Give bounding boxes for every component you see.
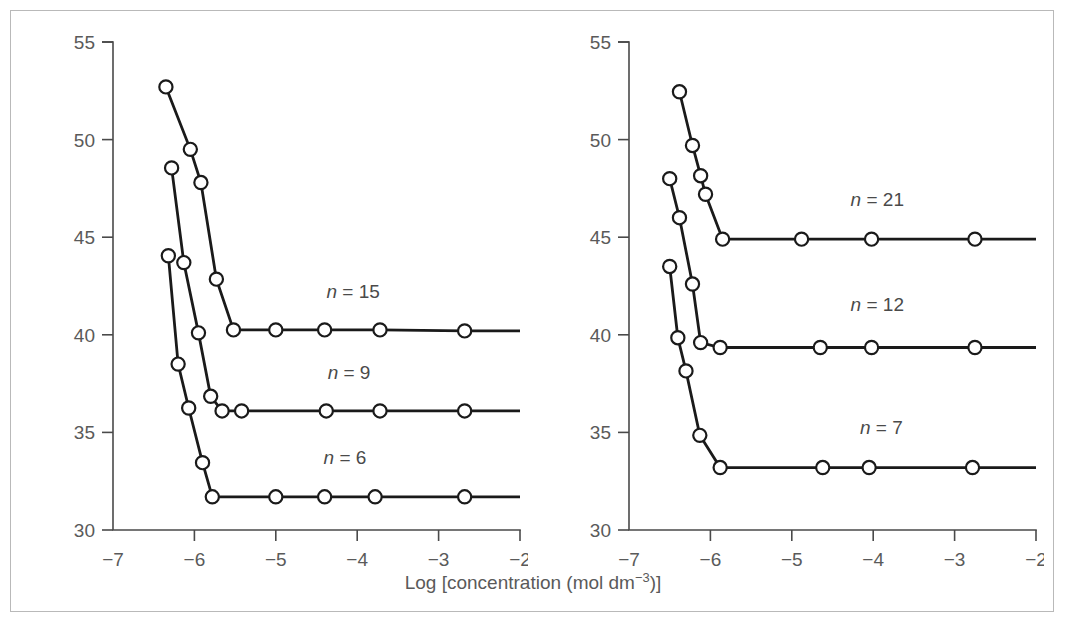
data-point [795, 233, 808, 246]
data-point [206, 490, 219, 503]
data-point [318, 490, 331, 503]
data-point [865, 233, 878, 246]
x-tick-label--5: −5 [265, 549, 287, 570]
x-tick-label--3: −3 [944, 549, 966, 570]
data-point [694, 336, 707, 349]
series-left-0: n = 15 [159, 80, 520, 337]
data-point [966, 461, 979, 474]
x-tick-label--5: −5 [781, 549, 803, 570]
data-point [458, 404, 471, 417]
series-label-21: n = 21 [851, 189, 904, 210]
data-point [159, 80, 172, 93]
data-point [671, 331, 684, 344]
plot-area-left: 303540455055−7−6−5−4−3−2n = 15n = 9n = 6 [8, 14, 528, 610]
data-point [693, 429, 706, 442]
plot-area-right: 303540455055−7−6−5−4−3−2n = 21n = 12n = … [524, 14, 1044, 610]
data-point [458, 490, 471, 503]
data-point [686, 277, 699, 290]
data-point [196, 456, 209, 469]
data-point [204, 390, 217, 403]
data-point [184, 143, 197, 156]
figure-root: 303540455055−7−6−5−4−3−2n = 15n = 9n = 6… [0, 0, 1066, 624]
data-point [210, 273, 223, 286]
data-point [369, 490, 382, 503]
data-point [694, 169, 707, 182]
x-tick-label--7: −7 [618, 549, 640, 570]
data-point [227, 323, 240, 336]
y-tick-label-40: 40 [74, 325, 95, 346]
data-point [192, 326, 205, 339]
y-tick-label-30: 30 [74, 520, 95, 541]
data-point [673, 85, 686, 98]
data-point [714, 461, 727, 474]
data-point [686, 139, 699, 152]
series-right-2: n = 7 [663, 260, 1036, 474]
data-point [716, 233, 729, 246]
data-point [215, 404, 228, 417]
series-right-0: n = 21 [673, 85, 1036, 246]
data-point [320, 404, 333, 417]
data-point [162, 249, 175, 262]
data-point [816, 461, 829, 474]
series-label-15: n = 15 [326, 281, 379, 302]
data-point [235, 404, 248, 417]
y-tick-label-45: 45 [74, 227, 95, 248]
data-point [968, 233, 981, 246]
y-tick-label-55: 55 [590, 32, 611, 53]
y-tick-label-50: 50 [590, 130, 611, 151]
x-axis-title: Log [concentration (mol dm−3)] [405, 570, 662, 594]
series-label-6: n = 6 [324, 447, 367, 468]
axis-spines [113, 42, 520, 530]
series-label-12: n = 12 [851, 294, 904, 315]
data-point [373, 323, 386, 336]
x-tick-label--6: −6 [700, 549, 722, 570]
y-tick-label-35: 35 [590, 422, 611, 443]
y-axis-title-container: γ(mN m−1) [14, 222, 44, 392]
data-point [318, 323, 331, 336]
data-point [968, 341, 981, 354]
x-axis-title-container: Log [concentration (mol dm−3)] [0, 570, 1066, 594]
x-tick-label--4: −4 [346, 549, 368, 570]
data-point [194, 176, 207, 189]
series-line [679, 92, 1036, 239]
y-tick-label-35: 35 [74, 422, 95, 443]
x-tick-label--3: −3 [428, 549, 450, 570]
chart-panel-right: 303540455055−7−6−5−4−3−2n = 21n = 12n = … [524, 14, 1044, 610]
x-tick-label--2: −2 [1025, 549, 1044, 570]
data-point [663, 260, 676, 273]
y-tick-label-45: 45 [590, 227, 611, 248]
y-tick-label-50: 50 [74, 130, 95, 151]
data-point [865, 341, 878, 354]
y-tick-label-55: 55 [74, 32, 95, 53]
data-point [373, 404, 386, 417]
data-point [165, 161, 178, 174]
data-point [863, 461, 876, 474]
y-tick-label-30: 30 [590, 520, 611, 541]
data-point [182, 401, 195, 414]
data-point [458, 324, 471, 337]
series-label-7: n = 7 [860, 417, 903, 438]
data-point [177, 256, 190, 269]
x-tick-label--6: −6 [184, 549, 206, 570]
data-point [814, 341, 827, 354]
data-point [679, 364, 692, 377]
chart-panel-left: 303540455055−7−6−5−4−3−2n = 15n = 9n = 6 [8, 14, 528, 610]
data-point [269, 490, 282, 503]
series-right-1: n = 12 [663, 172, 1036, 354]
data-point [714, 341, 727, 354]
data-point [172, 357, 185, 370]
data-point [269, 323, 282, 336]
series-label-9: n = 9 [328, 362, 371, 383]
x-tick-label--7: −7 [102, 549, 124, 570]
y-tick-label-40: 40 [590, 325, 611, 346]
x-tick-label--4: −4 [862, 549, 884, 570]
data-point [663, 172, 676, 185]
data-point [673, 211, 686, 224]
data-point [699, 188, 712, 201]
